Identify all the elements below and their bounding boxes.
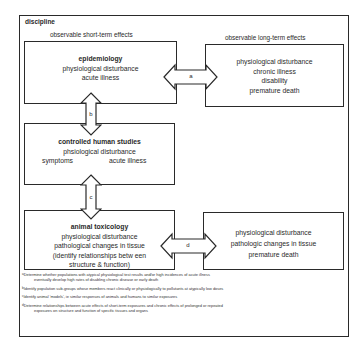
- footnote-a: aDetermine whether populations with atyp…: [22, 272, 344, 282]
- long-term-line: disability: [206, 76, 343, 86]
- arrow-label-d: d: [183, 242, 193, 248]
- epidemiology-title: epidemiology: [25, 54, 176, 64]
- footnote-c: cIdentify animal 'models', ie similar re…: [22, 294, 344, 299]
- long-term-line: premature death: [206, 86, 343, 96]
- diagram-title: discipline: [25, 18, 55, 25]
- header-long-term: observable long-term effects: [225, 34, 306, 41]
- long-term-bottom-box: physiological disturbance pathologic cha…: [203, 212, 344, 270]
- epidemiology-line: physiological disturbance: [25, 64, 176, 74]
- arrow-label-c: c: [86, 194, 96, 200]
- footnote-d: dDetermine relationships between acute e…: [22, 303, 344, 313]
- footnote-text: Identify animal 'models', ie similar res…: [24, 294, 178, 299]
- footnotes: aDetermine whether populations with atyp…: [22, 272, 344, 316]
- footnote-text: eventually develop high rates of disabli…: [22, 277, 344, 282]
- header-short-term: observable short-term effects: [50, 31, 133, 38]
- long-term-line: physiological disturbance: [204, 227, 343, 238]
- long-term-line: chronic illness: [206, 67, 343, 77]
- footnote-b: bIdentify population sub-groups whose me…: [22, 286, 344, 291]
- controlled-human-studies-title: controlled human studies: [25, 137, 174, 147]
- long-term-line: premature death: [204, 249, 343, 260]
- animal-toxicology-line: physiological disturbance: [25, 232, 174, 242]
- footnote-text: Identify population sub-groups whose mem…: [24, 286, 224, 291]
- controlled-human-line: symptoms: [42, 156, 73, 166]
- long-term-top-box: physiological disturbance chronic illnes…: [205, 44, 344, 107]
- animal-toxicology-line: structure & function): [25, 260, 174, 270]
- long-term-line: physiological disturbance: [206, 57, 343, 67]
- animal-toxicology-title: animal toxicology: [25, 222, 174, 232]
- controlled-human-line: acute illness: [109, 156, 146, 166]
- animal-toxicology-line: pathological changes in tissue: [25, 241, 174, 251]
- epidemiology-line: acute illness: [25, 73, 176, 83]
- long-term-line: pathologic changes in tissue: [204, 238, 343, 249]
- footnote-text: exposures on structure and function of s…: [22, 308, 344, 313]
- animal-toxicology-line: (identify relationships betw een: [25, 251, 174, 261]
- arrow-label-b: b: [86, 111, 96, 117]
- arrow-label-a: a: [186, 73, 196, 79]
- controlled-human-line: phsiological disturbance: [25, 147, 174, 157]
